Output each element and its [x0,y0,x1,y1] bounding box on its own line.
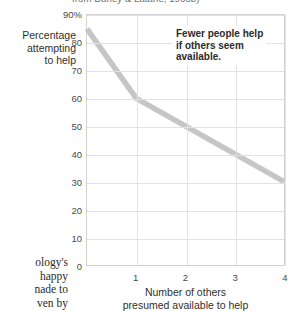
x-axis-title: Number of others presumed available to h… [86,286,285,311]
y-axis-tick-label: 70 [52,65,82,76]
gridline-horizontal [87,239,284,240]
gridline-horizontal [87,15,284,16]
annotation-line-2: if others seem [176,40,263,52]
x-axis-tick-label: 3 [233,272,238,283]
y-axis-tick-label: 80 [52,37,82,48]
gridline-horizontal [87,183,284,184]
gridline-horizontal [87,99,284,100]
body-text-line-2: happy [0,270,68,284]
annotation-line-3: available. [176,51,263,63]
gridline-horizontal [87,211,284,212]
body-text-line-4: ven by [0,297,68,311]
y-axis-tick-label: 30 [52,177,82,188]
x-axis-title-line-1: Number of others [86,286,285,299]
x-axis-tick-label: 2 [183,272,188,283]
chart-annotation: Fewer people help if others seem availab… [172,26,266,65]
y-axis-tick-label: 20 [52,205,82,216]
gridline-vertical [137,15,138,265]
y-axis-tick-label: 0 [52,261,82,272]
y-axis-tick-label: 10 [52,233,82,244]
y-axis-tick-labels: 0102030405060708090% [52,14,82,266]
gridline-horizontal [87,155,284,156]
x-axis-tick-label: 4 [282,272,287,283]
y-axis-tick-label: 60 [52,93,82,104]
body-text-line-3: nade to [0,283,68,297]
x-axis-tick-label: 1 [133,272,138,283]
gridline-horizontal [87,127,284,128]
y-axis-tick-label: 90% [52,9,82,20]
figure-source-caption: from Darley & Latané, 1968b) [72,0,282,4]
gridline-vertical [285,15,286,265]
x-axis-title-line-2: presumed available to help [86,299,285,311]
gridline-horizontal [87,71,284,72]
annotation-line-1: Fewer people help [176,28,263,40]
y-axis-tick-label: 50 [52,121,82,132]
y-axis-tick-label: 40 [52,149,82,160]
x-axis-tick-labels: 1234 [86,272,285,286]
